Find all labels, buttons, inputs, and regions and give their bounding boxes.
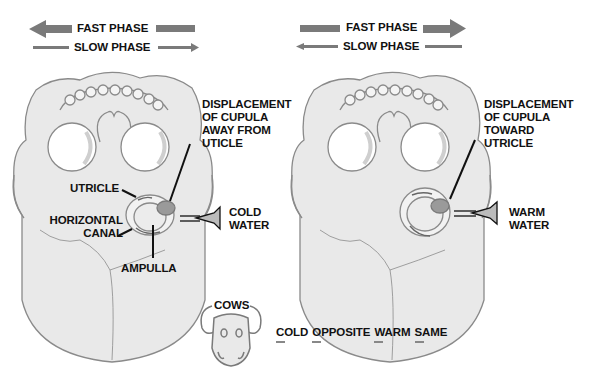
warm-water-label: WARM WATER [509,206,549,232]
cold-water-line-2: WATER [229,219,269,232]
mnemonic-word-same: SAME [415,326,448,338]
right-displacement-label: DISPLACEMENT OF CUPULA TOWARD UTRICLE [484,98,574,150]
left-displacement-line-3: AWAY FROM [202,124,292,137]
left-slow-phase-label: SLOW PHASE [74,41,150,54]
left-displacement-line-4: UTICLE [202,137,292,150]
right-displacement-line-1: DISPLACEMENT [484,98,574,111]
left-fast-phase-label: FAST PHASE [77,22,148,35]
right-slow-phase-label: SLOW PHASE [343,40,419,53]
cold-water-line-1: COLD [229,206,269,219]
ampulla-label: AMPULLA [121,262,177,275]
cows-title: COWS [214,299,249,312]
mnemonic-word-cold: COLD [276,326,308,338]
utricle-label: UTRICLE [70,182,119,195]
mnemonic-word-warm: WARM [374,326,410,338]
right-displacement-line-4: UTRICLE [484,137,574,150]
cows-mnemonic: COLD OPPOSITE WARM SAME [276,326,447,339]
left-displacement-line-2: OF CUPULA [202,111,292,124]
right-fast-phase-label: FAST PHASE [346,21,417,34]
mnemonic-word-opposite: OPPOSITE [312,326,370,338]
horizontal-canal-line-1: HORIZONTAL [48,214,123,227]
left-displacement-line-1: DISPLACEMENT [202,98,292,111]
right-skull [291,72,491,362]
horizontal-canal-label: HORIZONTAL CANAL [48,214,123,240]
cow-head-icon [201,306,261,366]
right-displacement-line-2: OF CUPULA [484,111,574,124]
left-displacement-label: DISPLACEMENT OF CUPULA AWAY FROM UTICLE [202,98,292,150]
warm-water-line-2: WATER [509,219,549,232]
horizontal-canal-line-2: CANAL [48,227,123,240]
right-displacement-line-3: TOWARD [484,124,574,137]
warm-water-line-1: WARM [509,206,549,219]
cold-water-label: COLD WATER [229,206,269,232]
